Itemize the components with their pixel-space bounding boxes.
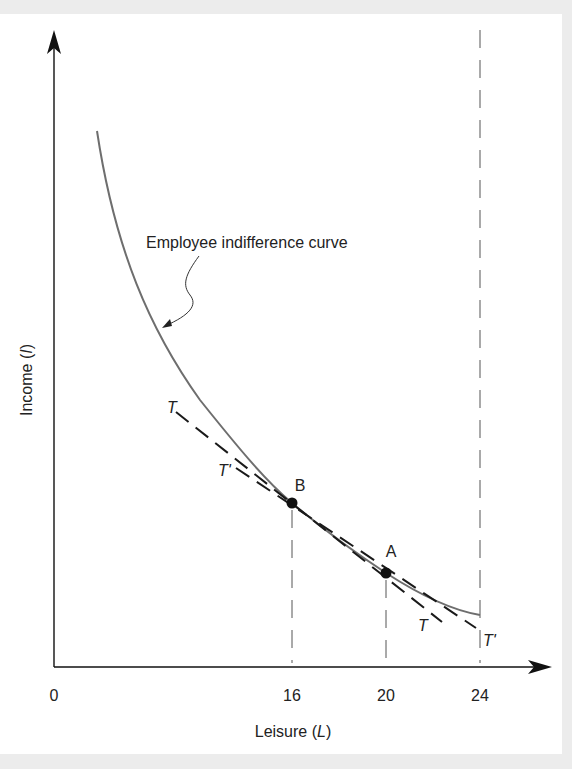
x-axis-label-suffix: )	[326, 723, 331, 740]
point-A-label: A	[386, 543, 397, 560]
point-B-marker	[287, 498, 298, 509]
axes	[47, 30, 552, 674]
annotation-arrow-icon	[162, 319, 172, 328]
y-axis-label-prefix: Income (	[18, 353, 35, 416]
x-tick-24: 24	[471, 687, 489, 704]
annotation-leader	[165, 256, 199, 326]
indifference-curve	[97, 131, 480, 615]
x-axis-label-var: L	[317, 723, 326, 740]
line-T-prime-label-upper: T'	[218, 462, 232, 479]
line-T-prime-label-lower: T'	[483, 632, 497, 649]
origin-label: 0	[50, 687, 59, 704]
y-axis-label-suffix: )	[18, 344, 35, 349]
point-B-label: B	[295, 477, 306, 494]
x-tick-16: 16	[283, 687, 301, 704]
budget-line-T-prime	[236, 468, 476, 628]
x-axis-label-prefix: Leisure (	[255, 723, 318, 740]
line-T-label-lower: T	[418, 617, 429, 634]
curve-annotation: Employee indifference curve	[146, 234, 348, 251]
x-tick-20: 20	[377, 687, 395, 704]
line-T-label-upper: T	[167, 399, 178, 416]
y-axis-label: Income (I)	[18, 344, 35, 416]
labor-leisure-diagram: Employee indifference curve B A T T' T T…	[0, 0, 572, 769]
x-axis-label: Leisure (L)	[255, 723, 331, 740]
point-A-marker	[381, 568, 392, 579]
